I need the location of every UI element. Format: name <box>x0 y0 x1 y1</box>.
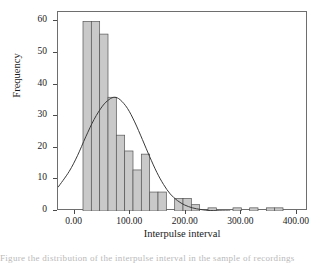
x-tick-mark <box>74 210 75 214</box>
x-axis-title: Interpulse interval <box>57 228 307 239</box>
x-tick-label: 200.00 <box>172 216 198 226</box>
histogram-bar <box>133 170 141 211</box>
x-tick-label: 100.00 <box>116 216 142 226</box>
x-tick-label: 400.00 <box>283 216 309 226</box>
plot-area <box>57 11 307 210</box>
y-axis: Frequency 0102030405060 <box>0 0 57 215</box>
y-tick-label: 60 <box>38 15 48 25</box>
figure-container: Frequency 0102030405060 0.00100.00200.00… <box>0 0 323 263</box>
histogram-bar <box>108 97 116 211</box>
histogram-bar <box>116 135 124 211</box>
x-tick-mark <box>296 210 297 214</box>
y-tick-label: 50 <box>38 47 48 57</box>
x-tick-mark <box>129 210 130 214</box>
histogram-bar <box>83 21 91 211</box>
y-axis-title: Frequency <box>11 21 22 131</box>
y-tick-label: 30 <box>38 110 48 120</box>
histogram-bar <box>125 151 133 211</box>
x-tick-mark <box>185 210 186 214</box>
histogram-bar <box>100 34 108 211</box>
x-tick-mark <box>240 210 241 214</box>
y-tick-label: 40 <box>38 79 48 89</box>
histogram-plot <box>58 12 308 211</box>
y-tick-label: 20 <box>38 142 48 152</box>
y-tick-label: 10 <box>38 173 48 183</box>
histogram-bars <box>83 21 283 211</box>
histogram-bar <box>141 154 149 211</box>
histogram-bar <box>158 192 166 211</box>
histogram-bar <box>150 192 158 211</box>
x-tick-label: 300.00 <box>227 216 253 226</box>
x-tick-label: 0.00 <box>65 216 82 226</box>
figure-caption-remnant: Figure the distribution of the interpuls… <box>0 253 323 263</box>
